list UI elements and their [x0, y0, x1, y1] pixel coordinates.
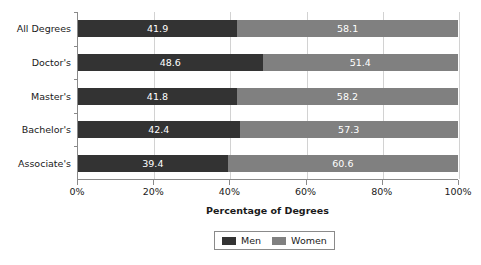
bar-segment-men: 42.4: [78, 121, 240, 138]
category-label: Associate's: [0, 159, 71, 169]
category-axis-labels: All DegreesDoctor'sMaster'sBachelor'sAss…: [0, 12, 71, 180]
category-tick: [74, 79, 78, 80]
plot-area: 41.958.148.651.441.858.242.457.339.460.6: [77, 12, 458, 180]
legend-swatch-icon: [222, 237, 236, 245]
x-tick-label: 100%: [428, 187, 481, 197]
legend-item-men[interactable]: Men: [222, 236, 261, 246]
bar-segment-women: 51.4: [263, 54, 458, 71]
category-label: All Degrees: [0, 24, 71, 34]
x-tick-mark: [382, 180, 383, 185]
bar-segment-women: 58.2: [237, 88, 458, 105]
x-tick-label: 80%: [352, 187, 412, 197]
bar-row: 41.958.1: [78, 20, 458, 37]
category-tick: [74, 146, 78, 147]
bar-rows: 41.958.148.651.441.858.242.457.339.460.6: [78, 12, 458, 179]
x-axis-tick-labels: 0%20%40%60%80%100%: [0, 187, 481, 201]
chart-legend: MenWomen: [214, 231, 335, 250]
x-tick-mark: [229, 180, 230, 185]
bar-segment-men: 41.8: [78, 88, 237, 105]
legend-label: Women: [291, 236, 327, 246]
x-tick-mark: [77, 180, 78, 185]
bar-segment-men: 41.9: [78, 20, 237, 37]
category-tick: [74, 12, 78, 13]
stacked-bar-chart: All DegreesDoctor'sMaster'sBachelor'sAss…: [0, 0, 481, 265]
bar-segment-women: 57.3: [240, 121, 458, 138]
bar-segment-women: 60.6: [228, 155, 458, 172]
bar-row: 42.457.3: [78, 121, 458, 138]
x-tick-mark: [153, 180, 154, 185]
x-tick-label: 40%: [199, 187, 259, 197]
bar-segment-men: 39.4: [78, 155, 228, 172]
x-tick-mark: [458, 180, 459, 185]
bar-row: 39.460.6: [78, 155, 458, 172]
x-tick-label: 60%: [276, 187, 336, 197]
bar-segment-women: 58.1: [237, 20, 458, 37]
bar-row: 41.858.2: [78, 88, 458, 105]
x-axis-title: Percentage of Degrees: [77, 206, 458, 216]
x-tick-label: 0%: [47, 187, 107, 197]
category-tick: [74, 113, 78, 114]
category-label: Master's: [0, 92, 71, 102]
x-tick-label: 20%: [123, 187, 183, 197]
gridline: [459, 12, 460, 179]
bar-segment-men: 48.6: [78, 54, 263, 71]
bar-row: 48.651.4: [78, 54, 458, 71]
category-label: Bachelor's: [0, 125, 71, 135]
legend-item-women[interactable]: Women: [272, 236, 327, 246]
category-tick: [74, 46, 78, 47]
x-axis-ticks: [77, 180, 458, 185]
legend-label: Men: [241, 236, 261, 246]
category-label: Doctor's: [0, 58, 71, 68]
x-tick-mark: [306, 180, 307, 185]
legend-swatch-icon: [272, 237, 286, 245]
